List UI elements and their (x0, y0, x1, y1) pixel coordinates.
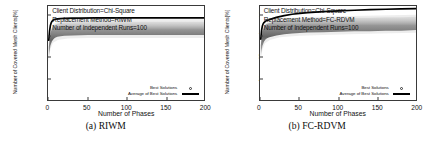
annotation-line-1-a: Client Distribution=Chi-Square (52, 7, 147, 16)
subfigure-caption-a: (a) RIWM (86, 120, 126, 131)
annotation-block-b: Client Distribution=Chi-Square Replaceme… (264, 7, 359, 33)
annotation-line-2-a: Replacement Method=RIWM (52, 16, 147, 25)
line-marker-icon-a (180, 93, 200, 95)
line-marker-icon-b (392, 93, 412, 95)
annotation-line-2-b: Replacement Method=FC-RDVM (264, 16, 359, 25)
legend-row-average-a: Average of Best Solutions (116, 91, 200, 97)
legend-label-average-b: Average of Best Solutions (340, 91, 389, 97)
x-axis-label-a: Number of Phases (47, 110, 205, 117)
legend-label-average-a: Average of Best Solutions (128, 91, 177, 97)
legend-row-average-b: Average of Best Solutions (328, 91, 412, 97)
legend-b: Best Solutions Average of Best Solutions (328, 85, 412, 97)
subfigure-b: Number of Covered Mesh Clients[%] 100 75… (212, 0, 423, 150)
figure-row: Number of Covered Mesh Clients[%] 100 75… (0, 0, 423, 150)
subfigure-caption-b: (b) FC-RDVM (289, 120, 346, 131)
annotation-line-1-b: Client Distribution=Chi-Square (264, 7, 359, 16)
y-axis-label-a: Number of Covered Mesh Clients[%] (10, 0, 21, 104)
plot-area-a: Number of Covered Mesh Clients[%] 100 75… (0, 0, 211, 118)
circle-marker-icon-b (392, 87, 412, 90)
annotation-block-a: Client Distribution=Chi-Square Replaceme… (52, 7, 147, 33)
circle-marker-icon-a (180, 87, 200, 90)
annotation-line-3-a: Number of Independent Runs=100 (52, 24, 147, 33)
x-axis-label-b: Number of Phases (259, 110, 417, 117)
subfigure-a: Number of Covered Mesh Clients[%] 100 75… (0, 0, 212, 150)
legend-a: Best Solutions Average of Best Solutions (116, 85, 200, 97)
y-axis-label-b: Number of Covered Mesh Clients[%] (222, 0, 233, 104)
plot-area-b: Number of Covered Mesh Clients[%] 100 75… (212, 0, 423, 118)
annotation-line-3-b: Number of Independent Runs=100 (264, 24, 359, 33)
plot-frame-a: Client Distribution=Chi-Square Replaceme… (47, 5, 205, 101)
plot-frame-b: Client Distribution=Chi-Square Replaceme… (259, 5, 417, 101)
